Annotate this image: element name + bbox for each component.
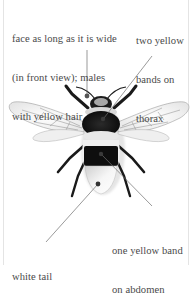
callout-face-line-1: face as long as it is wide	[12, 32, 117, 45]
callout-face-line-2: (in front view); males	[12, 71, 117, 84]
callout-abdomen-line-1: one yellow band	[112, 244, 183, 257]
callout-tail-line-1: white tail	[12, 270, 52, 283]
marker-dot-tail	[96, 182, 101, 187]
callout-thorax-line-3: thorax	[136, 112, 184, 125]
callout-abdomen-line-2: on abdomen	[112, 283, 183, 296]
callout-tail: white tail	[12, 244, 52, 296]
callout-face: face as long as it is wide (in front vie…	[12, 6, 117, 136]
marker-dot-abdomen	[99, 152, 103, 156]
callout-thorax: two yellow bands on thorax	[136, 8, 184, 138]
callout-face-line-3: with yellow hair	[12, 110, 117, 123]
callout-abdomen: one yellow band on abdomen	[112, 218, 183, 297]
callout-thorax-line-2: bands on	[136, 73, 184, 86]
callout-thorax-line-1: two yellow	[136, 34, 184, 47]
